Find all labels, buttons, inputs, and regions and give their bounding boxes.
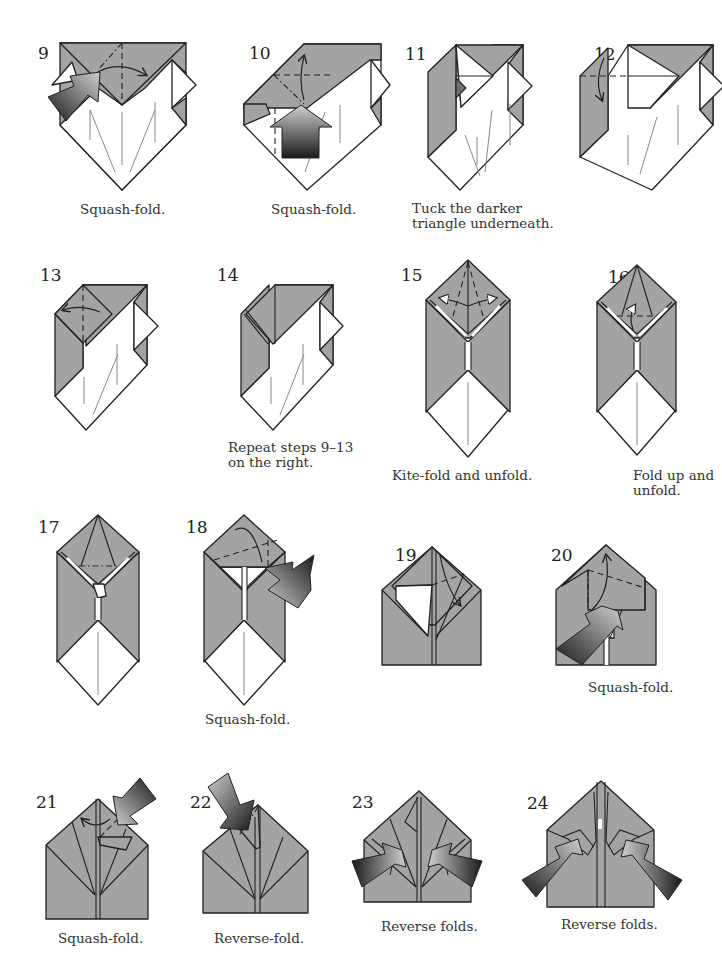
- step-caption: Reverse-fold.: [214, 931, 304, 946]
- step-17: 17: [0, 500, 180, 710]
- fold-diagram: [560, 0, 722, 230]
- step-caption: Tuck the darker triangle underneath.: [412, 201, 554, 231]
- step-19: 19: [380, 500, 540, 700]
- step-caption: Squash-fold.: [588, 680, 673, 695]
- step-23: 23 Reverse folds.: [340, 737, 520, 977]
- step-12: 12: [560, 0, 722, 230]
- fold-diagram: [340, 737, 520, 977]
- step-caption: Kite-fold and unfold.: [392, 468, 532, 483]
- fold-diagram: [0, 0, 240, 230]
- fold-diagram: [0, 250, 200, 450]
- step-caption: Reverse folds.: [561, 917, 658, 932]
- step-caption: Reverse folds.: [381, 919, 478, 934]
- step-9: 9 Squash-fold.: [0, 0, 240, 230]
- step-11: 11 Tuck the darker triangle underneath.: [380, 0, 560, 240]
- step-24: 24 Reverse folds.: [520, 737, 722, 977]
- step-caption: Fold up and unfold.: [633, 468, 714, 498]
- push-arrow-icon: [113, 778, 156, 825]
- fold-diagram: [0, 500, 180, 710]
- step-caption: Repeat steps 9–13 on the right.: [228, 440, 353, 470]
- fold-diagram: [380, 250, 560, 490]
- fold-diagram: [520, 737, 722, 977]
- fold-diagram: [200, 250, 380, 450]
- step-13: 13: [0, 250, 200, 450]
- step-10: 10 Squash-fold.: [240, 0, 380, 230]
- step-22: 22 Reverse-fold.: [180, 737, 340, 977]
- step-caption: Squash-fold.: [58, 931, 143, 946]
- step-21: 21 Squash-fold.: [0, 737, 180, 977]
- step-18: 18 Squash-fold.: [180, 500, 380, 740]
- step-16: 16 Fold up and unfold.: [560, 250, 722, 500]
- step-20: 20 Squash-fold.: [540, 500, 722, 720]
- push-arrow-icon: [208, 773, 254, 830]
- step-caption: Squash-fold.: [271, 202, 356, 217]
- step-caption: Squash-fold.: [80, 202, 165, 217]
- fold-diagram: [240, 0, 380, 230]
- step-14: 14 Repeat steps 9–13 on the right.: [200, 250, 380, 450]
- fold-diagram: [560, 250, 722, 500]
- fold-diagram: [180, 500, 380, 740]
- step-15: 15 Kite-fold and unfold.: [380, 250, 560, 490]
- fold-diagram: [380, 500, 540, 700]
- step-caption: Squash-fold.: [205, 712, 290, 727]
